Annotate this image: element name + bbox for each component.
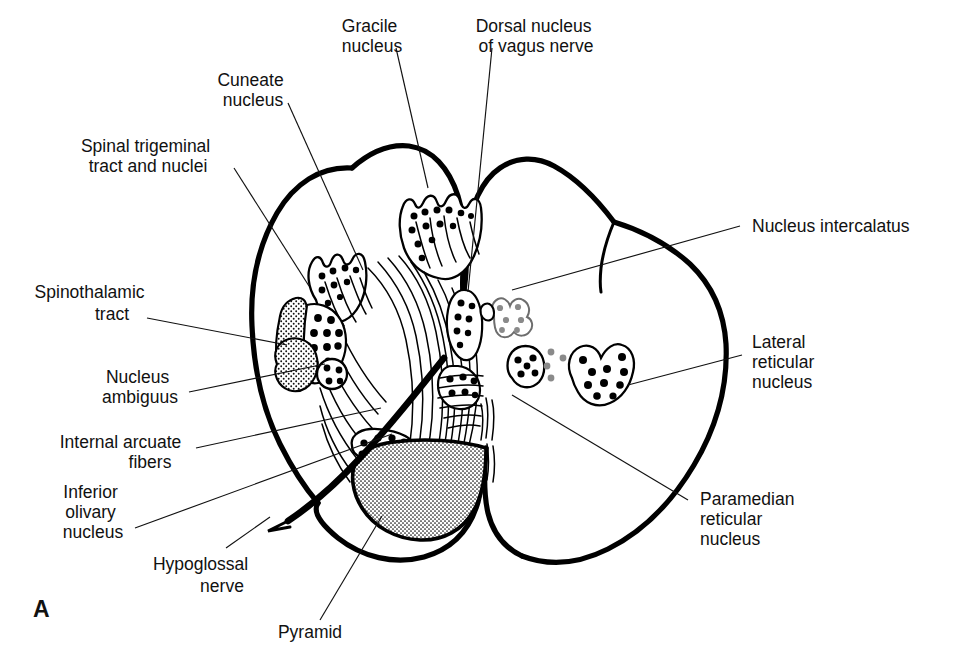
nucleus-ambiguus bbox=[317, 359, 347, 389]
label-inferior-olivary-nucleus: Inferior olivary nucleus bbox=[63, 482, 124, 542]
nucleus-intercalatus bbox=[481, 298, 533, 337]
medulla-cross-section-diagram: Gracile nucleus Dorsal nucleus of vagus … bbox=[0, 0, 954, 670]
label-spinothalamic-tract: Spinothalamic tract bbox=[35, 282, 150, 324]
label-dorsal-nucleus-of-vagus-nerve: Dorsal nucleus of vagus nerve bbox=[476, 16, 597, 56]
label-nucleus-ambiguus: Nucleus ambiguus bbox=[102, 367, 178, 407]
label-cuneate-nucleus: Cuneate nucleus bbox=[217, 70, 288, 110]
hypoglossal-leader bbox=[226, 517, 270, 548]
label-pyramid: Pyramid bbox=[278, 622, 342, 642]
panel-letter: A bbox=[33, 596, 50, 622]
label-gracile-nucleus: Gracile nucleus bbox=[342, 16, 403, 56]
label-nucleus-intercalatus: Nucleus intercalatus bbox=[752, 216, 910, 236]
spinothalamic-tract bbox=[275, 338, 317, 391]
gracile-leader bbox=[396, 48, 428, 188]
paramedian-reticular-leader bbox=[512, 395, 688, 500]
label-paramedian-reticular-nucleus: Paramedian reticular nucleus bbox=[700, 489, 799, 549]
label-internal-arcuate-fibers: Internal arcuate fibers bbox=[60, 432, 186, 472]
gracile-nucleus-body bbox=[400, 194, 482, 279]
paramedian-reticular-nucleus bbox=[508, 346, 545, 387]
lateral-reticular-nucleus bbox=[544, 344, 634, 405]
label-hypoglossal-nerve: Hypoglossal nerve bbox=[153, 554, 253, 596]
spinothalamic-leader bbox=[147, 318, 287, 345]
label-spinal-trigeminal-tract-and-nuclei: Spinal trigeminal tract and nuclei bbox=[81, 136, 215, 176]
dorsal-vagus-nucleus bbox=[447, 290, 482, 360]
figure-canvas: Gracile nucleus Dorsal nucleus of vagus … bbox=[0, 0, 954, 670]
dorsal-vagus-leader bbox=[468, 48, 492, 292]
label-lateral-reticular-nucleus: Lateral reticular nucleus bbox=[752, 332, 819, 392]
